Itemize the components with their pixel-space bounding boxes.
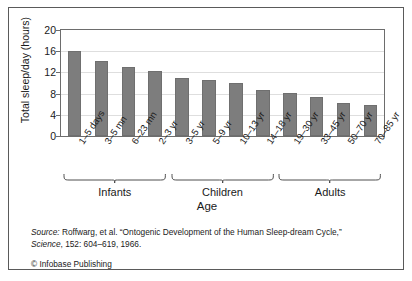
group-label: Infants [98,186,131,198]
y-tick-label: 4 [16,109,56,121]
caption-block: Source: Roffwarg, et al. “Ontogenic Deve… [31,227,381,271]
group-label: Children [202,186,243,198]
y-tick-label: 12 [16,66,56,78]
x-axis-title: Age [9,200,405,212]
y-tick-label: 0 [16,130,56,142]
group-bracket [171,174,274,183]
source-citation: Source: Roffwarg, et al. “Ontogenic Deve… [31,227,381,250]
y-tick-label: 16 [16,45,56,57]
copyright-notice: © Infobase Publishing [31,259,381,271]
group-label: Adults [315,186,346,198]
y-tick-label: 20 [16,24,56,36]
journal-detail: , 152: 604–619, 1966. [61,239,142,249]
y-tick-label: 8 [16,88,56,100]
journal-name: Science [31,239,61,249]
bar[interactable] [68,51,81,136]
group-bracket [63,174,166,183]
figure-frame: Total sleep/day (hours) 048121620 1–5 da… [8,7,404,270]
source-label: Source: [31,227,60,237]
sleep-by-age-bar-chart: Total sleep/day (hours) 048121620 1–5 da… [9,8,405,220]
source-text: Roffwarg, et al. “Ontogenic Development … [60,227,342,237]
group-bracket [278,174,381,183]
bar-slot [61,30,88,136]
